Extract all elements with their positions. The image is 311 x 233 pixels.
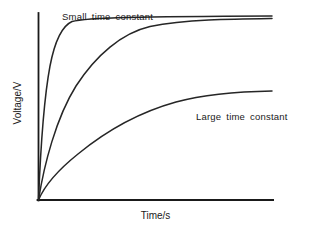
annotation-large-time-constant: Large time constant (196, 112, 288, 122)
x-axis-title: Time/s (0, 211, 311, 221)
y-axis-title: Voltage/V (13, 67, 23, 139)
curve-large-time-constant (39, 91, 273, 200)
chart-figure: Small time constant Large time constant … (0, 0, 311, 233)
annotation-small-time-constant: Small time constant (62, 12, 153, 22)
